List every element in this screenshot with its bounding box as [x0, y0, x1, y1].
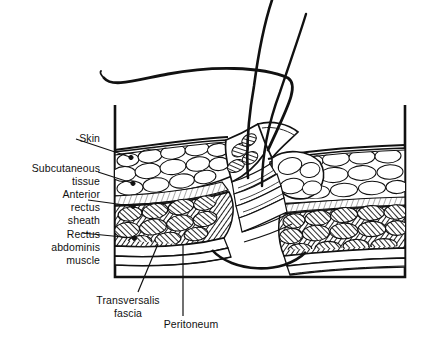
leader-dot-anterior-sheath: [131, 204, 135, 208]
label-transversalis-fascia: Transversalis fascia: [92, 294, 164, 320]
label-anterior-rectus-sheath: Anterior rectus sheath: [0, 188, 100, 227]
anatomy-figure: Skin Subcutaneous tissue Anterior rectus…: [0, 0, 424, 340]
leader-dot-rectus: [132, 236, 136, 240]
suture-needle-tip: [100, 71, 104, 78]
label-rectus-abdominis-muscle: Rectus abdominis muscle: [0, 228, 100, 267]
leader-dot-skin: [129, 155, 133, 159]
leader-dot-subcutaneous: [131, 181, 135, 185]
label-peritoneum: Peritoneum: [152, 318, 230, 331]
label-skin: Skin: [79, 132, 100, 145]
label-subcutaneous-tissue: Subcutaneous tissue: [0, 162, 100, 188]
